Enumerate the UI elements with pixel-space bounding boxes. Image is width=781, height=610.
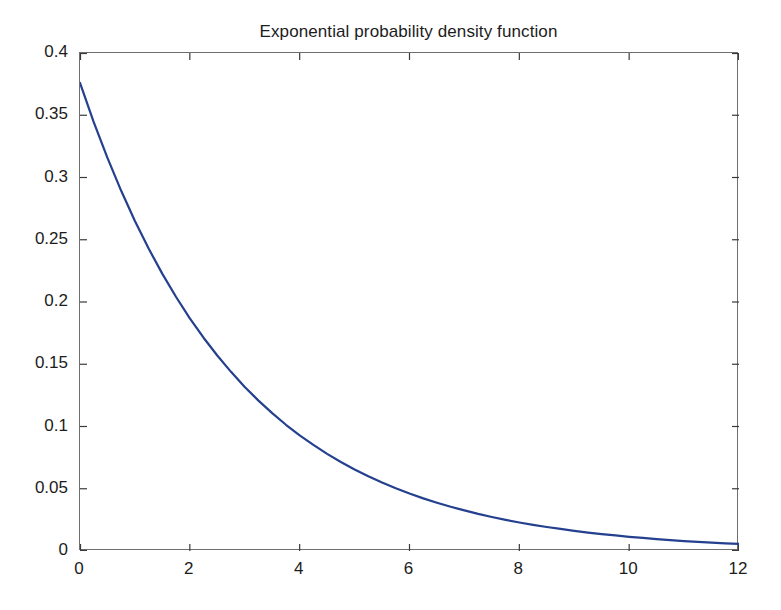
- x-tick-label-1: 2: [184, 559, 193, 579]
- y-tick-label-0: 0: [0, 540, 68, 560]
- x-tick-label-4: 8: [514, 559, 523, 579]
- x-tick-label-2: 4: [294, 559, 303, 579]
- x-tick-label-3: 6: [404, 559, 413, 579]
- y-tick-label-4: 0.2: [0, 291, 68, 311]
- y-tick-label-7: 0.35: [0, 104, 68, 124]
- y-tick-label-5: 0.25: [0, 229, 68, 249]
- chart-title: Exponential probability density function: [79, 22, 738, 42]
- x-tick-label-6: 12: [729, 559, 748, 579]
- x-tick-label-5: 10: [619, 559, 638, 579]
- y-tick-label-3: 0.15: [0, 353, 68, 373]
- data-series-group: [80, 83, 739, 544]
- figure-canvas: Exponential probability density function…: [0, 0, 781, 610]
- y-tick-label-6: 0.3: [0, 167, 68, 187]
- y-tick-label-1: 0.05: [0, 478, 68, 498]
- y-tick-label-8: 0.4: [0, 42, 68, 62]
- plot-svg: [80, 53, 739, 551]
- y-tick-label-2: 0.1: [0, 416, 68, 436]
- series-line-0: [80, 83, 739, 544]
- x-tick-label-0: 0: [74, 559, 83, 579]
- plot-area: [79, 52, 738, 550]
